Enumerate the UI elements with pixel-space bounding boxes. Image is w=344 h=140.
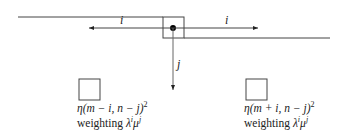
down-arrow-label: j bbox=[177, 58, 180, 70]
right-cell-weighting: weighting λiμj bbox=[244, 116, 315, 131]
left-cell-weighting: weighting λiμj bbox=[77, 116, 148, 131]
left-cell-caption: η(m − i, n − j)2 weighting λiμj bbox=[77, 101, 148, 131]
right-cell-formula: η(m + i, n − j)2 bbox=[244, 101, 315, 116]
right-cell-box bbox=[246, 79, 267, 100]
left-arrow-label: i bbox=[120, 14, 123, 26]
right-cell-caption: η(m + i, n − j)2 weighting λiμj bbox=[244, 101, 315, 131]
right-arrow-label: i bbox=[225, 14, 228, 26]
left-cell-formula: η(m − i, n − j)2 bbox=[77, 101, 148, 116]
left-cell-box bbox=[79, 79, 100, 100]
